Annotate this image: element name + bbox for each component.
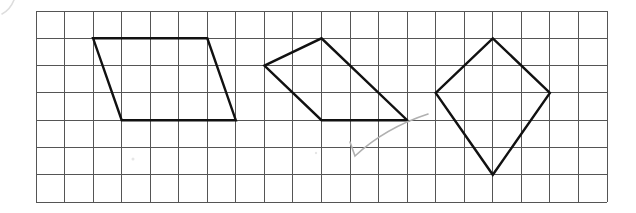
grid-diagram: [0, 0, 636, 213]
quadrilateral-middle-shape: [264, 38, 407, 120]
pencil-dot: [315, 152, 317, 154]
pencil-dot: [132, 158, 135, 161]
pencil-corner-stroke: [2, 0, 14, 14]
parallelogram-shape: [93, 38, 236, 120]
